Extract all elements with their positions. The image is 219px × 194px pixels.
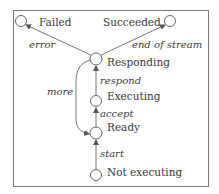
state-ready-node: [90, 127, 102, 139]
transition-accept-label: accept: [100, 108, 134, 119]
state-failed-node: [16, 16, 27, 27]
transition-start-label: start: [100, 148, 125, 159]
transition-respond-label: respond: [100, 75, 141, 86]
state-not-executing-label: Not executing: [107, 166, 182, 178]
state-succeeded-node: [165, 16, 176, 27]
state-executing-label: Executing: [107, 90, 161, 102]
state-responding-node: [90, 53, 102, 65]
transition-end-of-stream-label: end of stream: [132, 39, 202, 50]
state-executing-node: [91, 96, 102, 107]
transition-more-label: more: [47, 86, 73, 97]
state-responding-label: Responding: [107, 56, 170, 68]
state-failed-label: Failed: [39, 16, 72, 28]
edge-more: [76, 60, 90, 134]
state-succeeded-label: Succeeded: [103, 16, 161, 28]
state-ready-label: Ready: [107, 121, 140, 133]
transition-error-label: error: [29, 39, 56, 50]
state-diagram: Failed Succeeded Responding Executing Re…: [0, 0, 219, 194]
state-not-executing-node: [91, 170, 102, 181]
